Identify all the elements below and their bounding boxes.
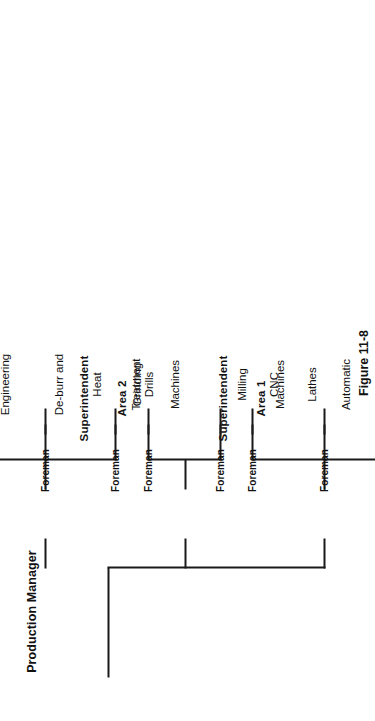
- area-1-bracket: [251, 458, 375, 460]
- deburr-line1: De-burr and: [52, 353, 65, 414]
- node-foreman-deburr-heat-treatment: Foreman: [39, 449, 50, 492]
- area-2-connector: [184, 459, 186, 489]
- root-connector-line: [107, 567, 109, 677]
- trunk-arm-to-area-1: [323, 538, 325, 568]
- org-chart: Production Manager Superintendent Area 1: [0, 0, 375, 721]
- area-2-stub-foreman-1: [219, 408, 221, 434]
- milling-machines-line1: Milling: [235, 359, 248, 408]
- deburr-line3: Treatment: [129, 353, 142, 414]
- area-3-bracket: [0, 458, 116, 460]
- trunk-arm-to-area-2: [184, 538, 186, 568]
- org-chart-rotated-frame: Production Manager Superintendent Area 1: [0, 0, 375, 721]
- function-deburr-heat-treatment: De-burr and Heat Treatment: [26, 353, 168, 414]
- figure-caption: Figure 11-8: [357, 330, 371, 396]
- node-foreman-automatic-lathes: Foreman: [318, 449, 329, 492]
- trunk-arm-to-area-3: [44, 538, 46, 568]
- milling-machines-line2: Machines: [273, 359, 286, 408]
- function-process-engineering: Process Engineering: [0, 353, 37, 414]
- process-engineering-line2: Engineering: [0, 353, 11, 414]
- area-2-bracket: [147, 458, 221, 460]
- area-1-stub-foreman-3: [251, 408, 253, 434]
- figure-page: Production Manager Superintendent Area 1: [0, 0, 375, 721]
- area-1-stub-foreman-2: [323, 408, 325, 434]
- node-foreman-grinding-machines: Foreman: [109, 449, 120, 492]
- node-foreman-drills: Foreman: [142, 449, 153, 492]
- node-foreman-milling-machines: Foreman: [214, 449, 225, 492]
- deburr-line2: Heat: [90, 353, 103, 414]
- node-foreman-cnc-lathes: Foreman: [246, 449, 257, 492]
- main-trunk-line: [107, 566, 325, 568]
- grinding-machines-line2: Machines: [168, 359, 181, 408]
- node-production-manager: Production Manager: [24, 550, 38, 673]
- function-milling-machines: Milling Machines: [209, 359, 312, 408]
